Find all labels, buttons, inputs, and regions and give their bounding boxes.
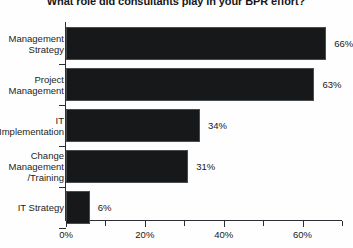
bar-value-label: 66% xyxy=(334,38,353,49)
x-axis-tick-label: 0% xyxy=(46,229,86,240)
category-label: IT Implementation xyxy=(0,115,64,137)
bar xyxy=(66,150,188,183)
category-label: Project Management xyxy=(0,74,64,96)
x-axis-minor-tick xyxy=(263,221,264,226)
chart-title: What role did consultants play in your B… xyxy=(0,0,352,7)
bar xyxy=(66,27,326,60)
bar-value-label: 63% xyxy=(322,79,341,90)
x-axis-tick-label: 60% xyxy=(283,229,323,240)
x-axis-major-tick xyxy=(66,221,67,227)
category-label: Change Management /Training xyxy=(0,150,64,183)
y-axis-tick xyxy=(59,64,66,65)
x-axis-minor-tick xyxy=(184,221,185,226)
chart-title-clip: What role did consultants play in your B… xyxy=(0,0,352,11)
bar xyxy=(66,109,200,142)
x-axis-tick-label: 40% xyxy=(204,229,244,240)
x-axis-minor-tick xyxy=(342,221,343,226)
x-axis-line xyxy=(65,220,342,221)
bar xyxy=(66,68,314,101)
y-axis-tick xyxy=(59,187,66,188)
y-axis-tick xyxy=(59,146,66,147)
bar xyxy=(66,191,90,224)
category-label: Management Strategy xyxy=(0,33,64,55)
x-axis-major-tick xyxy=(224,221,225,227)
y-axis-tick xyxy=(59,105,66,106)
x-axis-major-tick xyxy=(145,221,146,227)
category-label: IT Strategy xyxy=(0,202,64,213)
bar-value-label: 34% xyxy=(208,120,227,131)
x-axis-minor-tick xyxy=(105,221,106,226)
bar-value-label: 31% xyxy=(196,161,215,172)
x-axis-major-tick xyxy=(303,221,304,227)
bar-value-label: 6% xyxy=(98,202,112,213)
x-axis-tick-label: 20% xyxy=(125,229,165,240)
